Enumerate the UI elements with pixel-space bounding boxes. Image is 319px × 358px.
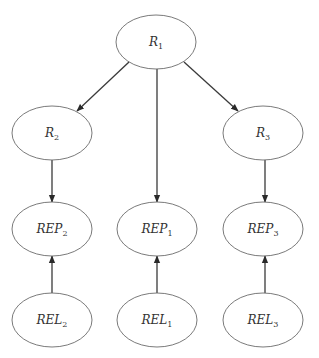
node-label-base: REP: [36, 222, 64, 236]
node-rep2: REP2: [12, 202, 92, 256]
node-label-base: R: [148, 35, 158, 49]
diagram-canvas: R1R2R3REP2REP1REP3REL2REL1REL3: [0, 0, 319, 358]
node-label-subscript: 3: [265, 133, 270, 142]
node-r2: R2: [12, 106, 92, 160]
node-label-base: REP: [247, 222, 275, 236]
node-label-subscript: 2: [62, 320, 67, 329]
node-label-base: REL: [141, 313, 168, 327]
node-rep1: REP1: [117, 202, 197, 256]
node-label-subscript: 1: [167, 320, 172, 329]
node-rel1: REL1: [117, 293, 197, 347]
node-label-base: REL: [36, 313, 63, 327]
node-label-subscript: 2: [54, 133, 59, 142]
node-label-subscript: 2: [62, 229, 67, 238]
node-label-base: REL: [247, 313, 274, 327]
node-rel2: REL2: [12, 293, 92, 347]
node-rel3: REL3: [223, 293, 303, 347]
node-rep3: REP3: [223, 202, 303, 256]
edges-group: [52, 62, 265, 293]
edge-r1-to-r2: [77, 62, 129, 111]
node-label-subscript: 1: [167, 229, 172, 238]
node-label-subscript: 1: [158, 42, 163, 51]
node-label-base: R: [44, 126, 54, 140]
node-label-subscript: 3: [273, 320, 278, 329]
node-r1: R1: [116, 15, 196, 69]
node-label-base: REP: [141, 222, 169, 236]
edge-r1-to-r3: [184, 62, 238, 111]
node-r3: R3: [223, 106, 303, 160]
node-label-base: R: [255, 126, 265, 140]
node-label-subscript: 3: [273, 229, 278, 238]
